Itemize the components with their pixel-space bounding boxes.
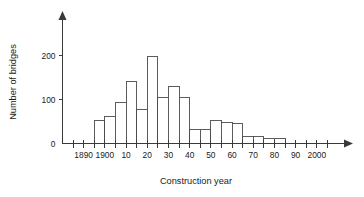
histogram-bar bbox=[221, 123, 232, 144]
histogram-bar bbox=[264, 138, 275, 143]
histogram-bar bbox=[179, 97, 190, 143]
histogram-bar bbox=[105, 116, 116, 143]
histogram-bar bbox=[158, 97, 169, 143]
x-axis-tick-label: 10 bbox=[121, 150, 131, 160]
histogram-bar bbox=[274, 138, 285, 143]
x-axis-tick-labels: 189019001020304050607080902000 bbox=[74, 150, 326, 160]
histogram-bar bbox=[115, 102, 126, 143]
bars-group bbox=[94, 56, 285, 143]
histogram-figure: 189019001020304050607080902000 0100200 C… bbox=[0, 0, 364, 197]
x-axis-tick-label: 50 bbox=[206, 150, 216, 160]
histogram-bar bbox=[200, 129, 211, 143]
histogram-bar bbox=[190, 129, 201, 143]
x-axis-tick-label: 90 bbox=[291, 150, 301, 160]
x-axis-tick-label: 1890 bbox=[74, 150, 93, 160]
histogram-bar bbox=[147, 56, 158, 143]
x-axis-arrow-icon bbox=[344, 140, 353, 148]
histogram-bar bbox=[243, 137, 254, 144]
histogram-bar bbox=[232, 124, 243, 144]
x-axis-tick-label: 2000 bbox=[307, 150, 326, 160]
x-axis-title: Construction year bbox=[160, 176, 232, 186]
chart-canvas: 189019001020304050607080902000 0100200 C… bbox=[0, 0, 364, 197]
y-axis-tick-label: 100 bbox=[42, 95, 56, 105]
histogram-bar bbox=[126, 81, 137, 143]
histogram-bar bbox=[168, 86, 179, 143]
y-axis-tick-label: 200 bbox=[42, 51, 56, 61]
x-axis-tick-label: 70 bbox=[249, 150, 259, 160]
y-axis-tick-labels: 0100200 bbox=[42, 51, 56, 149]
histogram-bar bbox=[211, 121, 222, 144]
x-axis-tick-label: 20 bbox=[143, 150, 153, 160]
x-axis-tick-label: 80 bbox=[270, 150, 280, 160]
y-axis-ticks bbox=[59, 56, 63, 100]
histogram-bar bbox=[94, 121, 105, 144]
y-axis-title: Number of bridges bbox=[8, 44, 18, 120]
x-axis-tick-label: 30 bbox=[164, 150, 174, 160]
x-axis-tick-label: 60 bbox=[227, 150, 237, 160]
y-axis-tick-label: 0 bbox=[51, 139, 56, 149]
x-axis-tick-label: 40 bbox=[185, 150, 195, 160]
y-axis-arrow-icon bbox=[59, 11, 67, 20]
x-axis-tick-label: 1900 bbox=[96, 150, 115, 160]
histogram-bar bbox=[137, 109, 148, 143]
histogram-bar bbox=[253, 137, 264, 144]
